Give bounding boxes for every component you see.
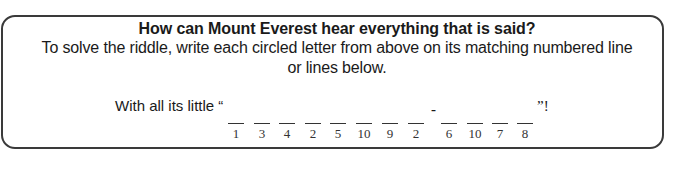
answer-suffix: ”! [537, 97, 549, 115]
answer-blank-line[interactable] [228, 123, 244, 124]
answer-blank-line[interactable] [408, 123, 424, 124]
answer-blank-line[interactable] [356, 123, 372, 124]
blank-number: 2 [301, 127, 325, 141]
blank-number: 6 [437, 127, 461, 141]
blank-number: 3 [250, 127, 274, 141]
riddle-title: How can Mount Everest hear everything th… [0, 19, 674, 39]
blank-number: 9 [378, 127, 402, 141]
blank-number: 10 [463, 127, 487, 141]
blank-number: 7 [488, 127, 512, 141]
blank-number: 4 [275, 127, 299, 141]
answer-blank-line[interactable] [330, 123, 346, 124]
blank-number: 8 [513, 127, 537, 141]
answer-hyphen: - [431, 101, 436, 117]
blank-number: 2 [404, 127, 428, 141]
blank-number: 5 [326, 127, 350, 141]
answer-blank-line[interactable] [305, 123, 321, 124]
answer-blank-line[interactable] [254, 123, 270, 124]
instructions-line-2: or lines below. [0, 58, 674, 78]
answer-blank-line[interactable] [467, 123, 483, 124]
blank-number: 1 [224, 127, 248, 141]
answer-prefix: With all its little “ [115, 97, 223, 115]
answer-blank-line[interactable] [441, 123, 457, 124]
answer-blank-line[interactable] [492, 123, 508, 124]
instructions-line-1: To solve the riddle, write each circled … [0, 38, 674, 58]
blank-number: 10 [352, 127, 376, 141]
answer-blank-line[interactable] [279, 123, 295, 124]
answer-blank-line[interactable] [382, 123, 398, 124]
riddle-instructions: To solve the riddle, write each circled … [0, 38, 674, 78]
answer-blank-line[interactable] [517, 123, 533, 124]
